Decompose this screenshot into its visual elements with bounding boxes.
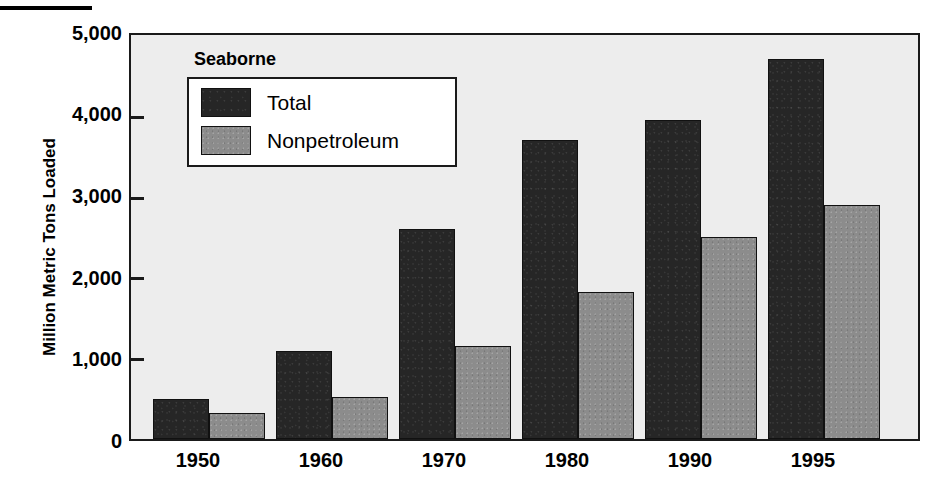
- bar-total-1960: [276, 351, 332, 439]
- legend-swatch-nonpetroleum-icon: [201, 126, 251, 155]
- y-tick-label: 3,000: [30, 186, 122, 206]
- bar-total-1970: [399, 229, 455, 439]
- legend-swatch-total-icon: [201, 88, 251, 117]
- y-tick-mark-3000: [131, 197, 144, 200]
- x-tick-label-1980: 1980: [507, 450, 627, 470]
- bar-nonpetroleum-1990: [701, 237, 757, 439]
- bar-nonpetroleum-1995: [824, 205, 880, 439]
- x-tick-label-1950: 1950: [138, 450, 258, 470]
- y-tick-label: 5,000: [30, 23, 122, 43]
- y-tick-mark-2000: [131, 277, 144, 280]
- x-tick-label-1995: 1995: [753, 450, 873, 470]
- bar-nonpetroleum-1950: [209, 413, 265, 439]
- bar-nonpetroleum-1980: [578, 292, 634, 439]
- y-tick-label: 0: [30, 431, 122, 451]
- legend-box: Total Nonpetroleum: [187, 77, 457, 167]
- bar-nonpetroleum-1960: [332, 397, 388, 439]
- y-tick-label: 4,000: [30, 104, 122, 124]
- y-tick-mark-4000: [131, 116, 144, 119]
- y-tick-label: 2,000: [30, 268, 122, 288]
- y-axis-tick-labels: 5,000 4,000 3,000 2,000 1,000 0: [30, 0, 122, 494]
- bar-total-1980: [522, 140, 578, 439]
- chart-figure: Million Metric Tons Loaded 5,000 4,000 3…: [0, 0, 943, 494]
- bar-total-1950: [153, 399, 209, 439]
- bar-total-1995: [768, 59, 824, 439]
- legend-label-nonpetroleum: Nonpetroleum: [267, 130, 399, 151]
- bar-nonpetroleum-1970: [455, 346, 511, 439]
- legend-item-total[interactable]: Total: [201, 88, 443, 117]
- bar-total-1990: [645, 120, 701, 439]
- x-tick-label-1990: 1990: [630, 450, 750, 470]
- x-tick-label-1960: 1960: [261, 450, 381, 470]
- legend-item-nonpetroleum[interactable]: Nonpetroleum: [201, 126, 443, 155]
- legend-title: Seaborne: [194, 49, 457, 70]
- y-tick-mark-1000: [131, 358, 144, 361]
- chart-legend: Seaborne Total Nonpetroleum: [187, 49, 457, 167]
- legend-label-total: Total: [267, 92, 311, 113]
- x-tick-label-1970: 1970: [384, 450, 504, 470]
- plot-area: Seaborne Total Nonpetroleum: [129, 33, 920, 441]
- plot-inner: Seaborne Total Nonpetroleum: [131, 35, 918, 439]
- y-tick-label: 1,000: [30, 349, 122, 369]
